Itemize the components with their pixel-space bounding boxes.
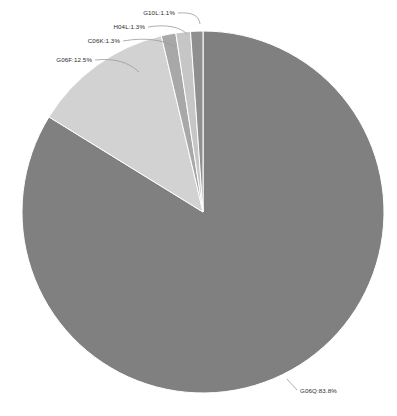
pie-chart-figure: G06Q:83.8%G06F:12.5%C06K:1.3%H04L:1.3%G1… <box>0 0 397 416</box>
pie-chart-svg: G06Q:83.8%G06F:12.5%C06K:1.3%H04L:1.3%G1… <box>0 0 397 416</box>
slice-label-g06f: G06F:12.5% <box>56 56 92 63</box>
slice-label-h04l: H04L:1.3% <box>113 23 145 30</box>
slice-label-g10l: G10L:1.1% <box>143 9 175 16</box>
slice-label-c06k: C06K:1.3% <box>88 37 121 44</box>
leader-line-g06q <box>287 379 297 390</box>
pie-slices-group <box>22 31 384 393</box>
leader-line-g10l <box>178 13 200 24</box>
slice-label-g06q: G06Q:83.8% <box>300 387 337 394</box>
